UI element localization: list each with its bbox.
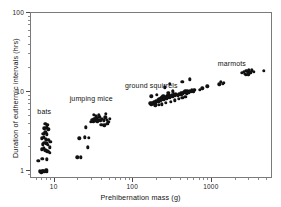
group-label-bats: bats (37, 108, 51, 115)
y-axis-minor-tick (28, 123, 30, 124)
data-point (169, 100, 172, 103)
data-point (188, 78, 191, 81)
data-point (48, 146, 51, 149)
data-point (77, 137, 80, 140)
x-axis-minor-tick (170, 178, 171, 180)
x-axis-minor-tick (120, 178, 121, 180)
y-axis-tick-label: 10 (4, 88, 24, 95)
x-axis-minor-tick (193, 178, 194, 180)
data-point (45, 158, 48, 161)
x-axis-tick-label: 100 (127, 183, 138, 190)
x-axis-minor-tick (101, 178, 102, 180)
data-point (108, 117, 111, 120)
x-axis-minor-tick (115, 178, 116, 180)
plot-area (30, 12, 272, 178)
y-axis-minor-tick (28, 44, 30, 45)
group-label-marmots: marmots (218, 59, 246, 66)
x-axis-minor-tick (258, 178, 259, 180)
x-axis-tick-label: 10 (50, 183, 58, 190)
y-axis-minor-tick (28, 67, 30, 68)
scatter-chart-figure: Duration of euthermic intervals (hrs) Pr… (0, 0, 281, 207)
x-axis-minor-tick (266, 178, 267, 180)
group-label-ground-squirrels: ground squirrels (125, 81, 178, 88)
x-axis-minor-tick (180, 178, 181, 180)
data-point (155, 93, 158, 96)
y-axis-minor-tick (28, 103, 30, 104)
data-point (201, 87, 204, 90)
y-axis-tick-label: 100 (4, 9, 24, 16)
x-axis-minor-tick (41, 178, 42, 180)
y-axis-tick (26, 12, 30, 13)
x-axis-minor-tick (109, 178, 110, 180)
y-axis-minor-tick (28, 95, 30, 96)
data-point (37, 159, 40, 162)
data-point (45, 132, 48, 135)
x-axis-minor-tick (77, 178, 78, 180)
data-point (150, 94, 153, 97)
data-point (86, 146, 89, 149)
group-label-jumping-mice: jumping mice (70, 94, 113, 101)
data-point (181, 80, 184, 83)
y-axis-tick-label: 1 (4, 167, 24, 174)
y-axis-minor-tick (28, 133, 30, 134)
y-axis-minor-tick (28, 115, 30, 116)
data-point (106, 122, 109, 125)
x-axis-label: Prehibernation mass (g) (0, 193, 281, 202)
data-point (84, 126, 87, 129)
data-point (164, 101, 167, 104)
x-axis-minor-tick (248, 178, 249, 180)
data-point (252, 70, 255, 73)
x-axis-minor-tick (129, 178, 130, 180)
x-axis-minor-tick (156, 178, 157, 180)
data-point (222, 81, 225, 84)
y-axis-minor-tick (28, 16, 30, 17)
y-axis-minor-tick (28, 146, 30, 147)
x-axis-tick (132, 178, 133, 182)
data-point (49, 140, 52, 143)
y-axis-label: Duration of euthermic intervals (hrs) (11, 38, 20, 158)
x-axis-minor-tick (125, 178, 126, 180)
x-axis-minor-tick (187, 178, 188, 180)
data-point (47, 128, 50, 131)
y-axis-minor-tick (28, 20, 30, 21)
x-axis-minor-tick (91, 178, 92, 180)
x-axis-minor-tick (207, 178, 208, 180)
y-axis-minor-tick (28, 99, 30, 100)
data-point (160, 103, 163, 106)
x-axis-minor-tick (235, 178, 236, 180)
y-axis-minor-tick (28, 30, 30, 31)
x-axis-minor-tick (203, 178, 204, 180)
x-axis-tick (54, 178, 55, 182)
y-axis-minor-tick (28, 174, 30, 175)
data-point (104, 112, 107, 115)
data-point (48, 151, 51, 154)
x-axis-minor-tick (36, 178, 37, 180)
data-point (246, 73, 249, 76)
data-point (45, 170, 48, 173)
y-axis-tick (26, 91, 30, 92)
x-axis-tick-label: 1000 (203, 183, 218, 190)
data-point (79, 156, 82, 159)
x-axis-minor-tick (199, 178, 200, 180)
y-axis-minor-tick (28, 36, 30, 37)
x-axis-minor-tick (46, 178, 47, 180)
y-axis-tick (26, 170, 30, 171)
data-point (46, 123, 49, 126)
x-axis-minor-tick (50, 178, 51, 180)
data-point (87, 136, 90, 139)
data-point (206, 85, 209, 88)
y-axis-minor-tick (28, 109, 30, 110)
data-point (184, 95, 187, 98)
x-axis-tick (211, 178, 212, 182)
data-point (262, 69, 265, 72)
data-point (83, 135, 86, 138)
data-point (193, 88, 196, 91)
data-point (41, 157, 44, 160)
y-axis-minor-tick (28, 53, 30, 54)
y-axis-minor-tick (28, 24, 30, 25)
